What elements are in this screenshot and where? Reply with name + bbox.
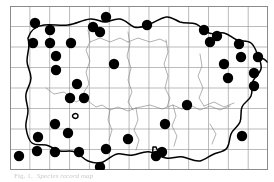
- record-dot: [234, 39, 244, 49]
- record-dot: [14, 151, 24, 161]
- record-dot: [253, 52, 263, 62]
- record-dot: [199, 25, 209, 35]
- figure-caption-text: Species record map: [37, 172, 94, 180]
- figure-caption: Fig. 1.Species record map: [14, 171, 254, 182]
- record-dot: [109, 59, 119, 69]
- record-dot: [28, 38, 38, 48]
- record-dot: [66, 38, 76, 48]
- record-dot: [101, 144, 111, 154]
- record-dot: [33, 132, 43, 142]
- record-dot: [101, 12, 111, 22]
- record-dot: [223, 73, 233, 83]
- record-dot: [160, 119, 170, 129]
- figure-caption-number: Fig. 1.: [14, 172, 33, 180]
- record-dot: [237, 131, 247, 141]
- record-dot: [236, 52, 246, 62]
- record-dot: [72, 79, 82, 89]
- record-dot: [212, 31, 222, 41]
- record-dot: [123, 134, 133, 144]
- record-dot: [65, 93, 75, 103]
- record-dot: [51, 51, 61, 61]
- record-dot: [142, 20, 152, 30]
- record-dot: [74, 147, 84, 157]
- record-dot: [79, 93, 89, 103]
- record-dot: [249, 81, 259, 91]
- record-dot: [50, 147, 60, 157]
- record-dot: [45, 38, 55, 48]
- record-dot: [50, 119, 60, 129]
- distribution-map-plate: [10, 6, 268, 170]
- record-dot: [63, 128, 73, 138]
- record-dot: [249, 68, 259, 78]
- record-dot: [30, 18, 40, 28]
- record-dot: [45, 25, 55, 35]
- distribution-map-svg: [10, 6, 268, 170]
- record-dot: [182, 100, 192, 110]
- record-dot: [151, 151, 161, 161]
- record-dot: [88, 22, 98, 32]
- figure-root: Fig. 1.Species record map: [0, 0, 274, 182]
- record-dot: [32, 146, 42, 156]
- record-dot: [51, 65, 61, 75]
- record-dot: [219, 59, 229, 69]
